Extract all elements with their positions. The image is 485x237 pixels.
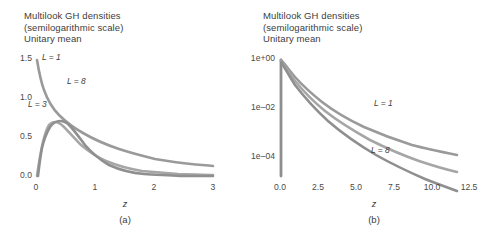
panel-b-label-L8: L = 8	[371, 145, 390, 155]
curve-L1-panel-a	[37, 60, 213, 166]
panel-b-title: Multilook GH densities (semilogarithmic …	[263, 10, 362, 45]
panel-a-xtick-1: 1	[85, 182, 105, 192]
curve-L8-panel-b	[281, 62, 457, 191]
panel-b-plot-area	[279, 52, 469, 176]
panel-a-label-L3: L = 3	[28, 99, 47, 109]
chart-panel-b: Multilook GH densities (semilogarithmic …	[243, 0, 485, 237]
panel-a-title-line-2: (semilogarithmic scale)	[24, 22, 123, 34]
panel-a-xtick-0: 0	[26, 182, 46, 192]
panel-a-plot-area	[36, 52, 214, 176]
panel-b-title-line-2: (semilogarithmic scale)	[263, 22, 362, 34]
curve-L3-panel-b	[281, 61, 457, 172]
panel-b-title-line-3: Unitary mean	[263, 33, 362, 45]
panel-b-xtick-7.5: 7.5	[383, 182, 405, 192]
panel-a-ytick-1.5: 1.5	[0, 53, 32, 63]
panel-a-title-line-3: Unitary mean	[24, 33, 123, 45]
panel-b-xaxis-label: z	[354, 199, 394, 209]
panel-b-ytick-1e-02: 1e–02	[243, 102, 275, 112]
panel-b-xtick-0.0: 0.0	[269, 182, 291, 192]
panel-a-label-L1: L = 1	[42, 52, 61, 62]
panel-b-ytick-1e-04: 1e–04	[243, 151, 275, 161]
panel-a-caption: (a)	[105, 214, 145, 225]
panel-a-title: Multilook GH densities (semilogarithmic …	[24, 10, 123, 45]
panel-b-label-L1: L = 1	[374, 98, 393, 108]
panel-a-xtick-3: 3	[203, 182, 223, 192]
panel-b-title-line-1: Multilook GH densities	[263, 10, 362, 22]
chart-panel-a: Multilook GH densities (semilogarithmic …	[0, 0, 242, 237]
panel-a-ytick-0.0: 0.0	[0, 170, 32, 180]
panel-b-curves	[279, 52, 469, 176]
panel-b-xtick-12.5: 12.5	[457, 182, 481, 192]
panel-a-xaxis-label: z	[105, 199, 145, 209]
panel-a-ytick-0.5: 0.5	[0, 131, 32, 141]
panel-b-xtick-5.0: 5.0	[345, 182, 367, 192]
panel-a-xtick-2: 2	[144, 182, 164, 192]
panel-b-xtick-2.5: 2.5	[307, 182, 329, 192]
curve-L3-panel-a	[37, 122, 213, 176]
panel-a-curves	[36, 52, 214, 176]
panel-a-title-line-1: Multilook GH densities	[24, 10, 123, 22]
panel-a-label-L8: L = 8	[67, 76, 86, 86]
panel-b-xtick-10.0: 10.0	[420, 182, 444, 192]
panel-b-ytick-1e+00: 1e+00	[243, 53, 275, 63]
panel-b-caption: (b)	[354, 214, 394, 225]
